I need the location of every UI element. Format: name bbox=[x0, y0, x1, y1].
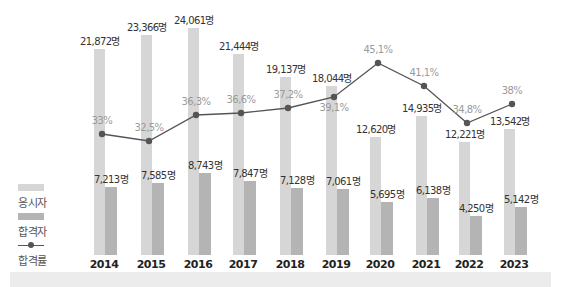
passer-bar bbox=[515, 207, 527, 255]
rate-value-label: 39,1% bbox=[320, 102, 349, 113]
passers-swatch bbox=[18, 213, 44, 220]
chart-canvas: 21,872명7,213명23,366명7,585명24,061명8,743명2… bbox=[0, 0, 561, 287]
rate-value-label: 41,1% bbox=[410, 67, 439, 78]
passer-value-label: 6,138명 bbox=[416, 185, 450, 196]
passer-bar bbox=[105, 187, 117, 255]
applicant-value-label: 12,620명 bbox=[356, 124, 396, 135]
passer-value-label: 4,250명 bbox=[459, 203, 493, 214]
year-label: 2021 bbox=[412, 258, 441, 271]
year-label: 2018 bbox=[276, 258, 305, 271]
rate-point-marker bbox=[193, 112, 199, 118]
passer-bar bbox=[291, 188, 303, 255]
applicant-value-label: 24,061명 bbox=[174, 15, 214, 26]
passer-value-label: 7,061명 bbox=[326, 176, 360, 187]
passer-value-label: 5,142명 bbox=[504, 194, 538, 205]
rate-value-label: 36,3% bbox=[182, 96, 211, 107]
year-label: 2015 bbox=[137, 258, 166, 271]
applicant-bar bbox=[94, 49, 105, 255]
passer-value-label: 7,213명 bbox=[94, 174, 128, 185]
rate-point-marker bbox=[421, 83, 427, 89]
rate-point-marker bbox=[285, 105, 291, 111]
legend-label-rate: 합격률 bbox=[18, 252, 58, 268]
passer-value-label: 5,695명 bbox=[370, 189, 404, 200]
applicant-value-label: 21,444명 bbox=[219, 41, 259, 52]
applicant-value-label: 23,366명 bbox=[127, 22, 167, 33]
legend-item-passers: 합격자 bbox=[18, 213, 58, 239]
legend-label-passers: 합격자 bbox=[18, 223, 58, 239]
rate-point-marker bbox=[331, 94, 337, 100]
applicant-value-label: 18,044명 bbox=[312, 73, 352, 84]
passer-value-label: 7,128명 bbox=[280, 175, 314, 186]
applicant-bar bbox=[233, 54, 244, 255]
passer-value-label: 7,585명 bbox=[141, 170, 175, 181]
year-label: 2017 bbox=[229, 258, 258, 271]
legend: 응시자 합격자 합격률 bbox=[18, 184, 58, 271]
applicant-value-label: 19,137명 bbox=[266, 64, 306, 75]
bottom-strip bbox=[10, 272, 551, 287]
rate-point-marker bbox=[99, 131, 105, 137]
applicant-value-label: 12,221명 bbox=[445, 129, 485, 140]
passer-bar bbox=[470, 216, 482, 255]
rate-value-label: 38% bbox=[502, 85, 523, 96]
rate-value-label: 34,8% bbox=[453, 104, 482, 115]
rate-point-marker bbox=[375, 60, 381, 66]
rate-point-marker bbox=[509, 101, 515, 107]
year-label: 2020 bbox=[366, 258, 395, 271]
passer-bar bbox=[244, 181, 256, 255]
passer-value-label: 8,743명 bbox=[188, 160, 222, 171]
rate-point-marker bbox=[464, 120, 470, 126]
year-label: 2022 bbox=[455, 258, 484, 271]
line-marker-icon bbox=[18, 242, 44, 249]
applicant-value-label: 14,935명 bbox=[402, 103, 442, 114]
rate-value-label: 37,2% bbox=[274, 89, 303, 100]
applicants-swatch bbox=[18, 184, 44, 191]
year-label: 2023 bbox=[500, 258, 529, 271]
year-label: 2016 bbox=[184, 258, 213, 271]
rate-value-label: 33% bbox=[92, 115, 113, 126]
passer-value-label: 7,847명 bbox=[233, 168, 267, 179]
x-axis-year-labels: 2014201520162017201820192020202120222023 bbox=[90, 258, 529, 271]
rate-value-label: 45,1% bbox=[364, 44, 393, 55]
legend-item-applicants: 응시자 bbox=[18, 184, 58, 210]
applicant-bar bbox=[141, 35, 152, 255]
passer-bar bbox=[381, 202, 393, 255]
applicant-value-label: 13,542명 bbox=[490, 116, 530, 127]
passer-bar bbox=[427, 198, 439, 255]
applicant-bar bbox=[459, 142, 470, 255]
rate-value-label: 32,5% bbox=[135, 122, 164, 133]
rate-point-marker bbox=[238, 110, 244, 116]
passer-bar bbox=[199, 173, 211, 255]
applicant-bar bbox=[280, 77, 291, 255]
year-label: 2014 bbox=[90, 258, 119, 271]
applicant-value-label: 21,872명 bbox=[80, 36, 120, 47]
legend-item-rate: 합격률 bbox=[18, 242, 58, 268]
applicant-bar bbox=[504, 129, 515, 255]
passer-bar bbox=[337, 189, 349, 255]
applicant-bar bbox=[188, 28, 199, 255]
legend-label-applicants: 응시자 bbox=[18, 194, 58, 210]
passer-bar bbox=[152, 183, 164, 255]
rate-value-label: 36,6% bbox=[227, 94, 256, 105]
year-label: 2019 bbox=[322, 258, 351, 271]
rate-point-marker bbox=[146, 138, 152, 144]
